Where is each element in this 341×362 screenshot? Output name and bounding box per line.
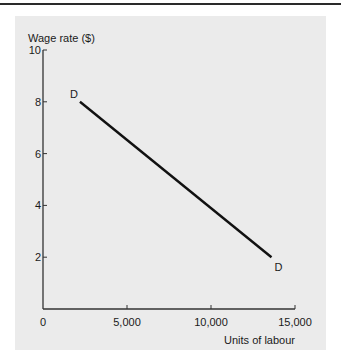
x-axis-label: Units of labour	[224, 334, 295, 346]
labels: 24681005,00010,00015,000Wage rate ($)Uni…	[28, 32, 312, 346]
y-tick-label: 2	[35, 251, 41, 263]
x-tick-label: 15,000	[278, 316, 312, 328]
y-tick-label: 10	[29, 44, 41, 56]
x-tick-label: 0	[40, 316, 46, 328]
x-tick-label: 5,000	[113, 316, 141, 328]
y-tick-label: 4	[35, 199, 41, 211]
curve-label: D	[70, 88, 78, 100]
x-tick-label: 10,000	[194, 316, 228, 328]
curve-label: D	[274, 261, 282, 273]
y-tick-label: 6	[35, 148, 41, 160]
series	[80, 102, 272, 257]
y-tick-label: 8	[35, 96, 41, 108]
demand-chart: 24681005,00010,00015,000Wage rate ($)Uni…	[0, 0, 341, 362]
demand-curve	[80, 102, 272, 257]
y-axis-label: Wage rate ($)	[28, 32, 95, 44]
axes	[43, 50, 295, 309]
